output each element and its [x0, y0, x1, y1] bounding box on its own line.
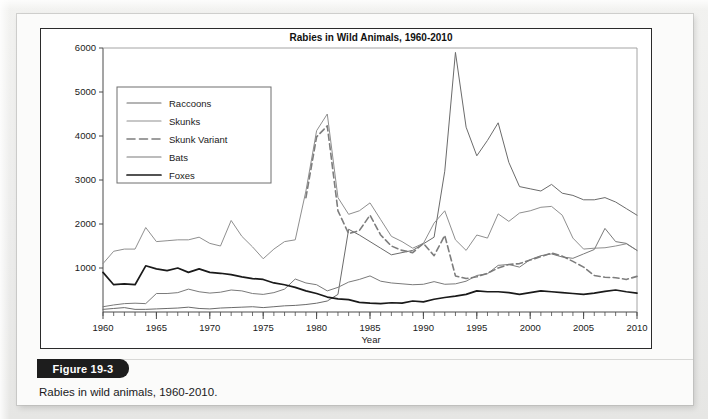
x-tick-label: 1995 [466, 322, 487, 333]
x-tick-label: 1960 [92, 322, 113, 333]
legend-label-bats: Bats [169, 152, 188, 163]
x-tick-label: 2010 [626, 322, 647, 333]
chart-panel: Rabies in Wild Animals, 1960-2010 100020… [40, 28, 652, 349]
x-axis-title: Year [361, 334, 380, 345]
series-line-skunk-variant [306, 126, 637, 280]
rabies-line-chart: Rabies in Wild Animals, 1960-2010 100020… [41, 29, 653, 350]
legend-label-skunk-variant: Skunk Variant [169, 134, 228, 145]
x-tick-label: 2000 [520, 322, 541, 333]
x-tick-label: 1970 [199, 322, 220, 333]
source-credit: Data from Centers for Disease Control an… [686, 0, 690, 32]
legend-label-raccoons: Raccoons [169, 98, 211, 109]
y-tick-label: 5000 [75, 86, 96, 97]
x-tick-label: 1985 [359, 322, 380, 333]
y-tick-label: 4000 [75, 130, 96, 141]
badge-divider [37, 359, 693, 378]
chart-title: Rabies in Wild Animals, 1960-2010 [290, 32, 453, 43]
y-tick-label: 6000 [75, 42, 96, 53]
figure-number-badge: Figure 19-3 [37, 359, 129, 378]
y-tick-label: 3000 [75, 174, 96, 185]
y-tick-label: 2000 [75, 218, 96, 229]
axes-layer: 1000200030004000500060001960196519701975… [75, 42, 648, 333]
y-tick-label: 1000 [75, 262, 96, 273]
series-line-foxes [103, 266, 637, 304]
legend-label-skunks: Skunks [169, 116, 200, 127]
x-tick-label: 1975 [253, 322, 274, 333]
figure-caption: Rabies in wild animals, 1960-2010. [39, 386, 659, 398]
figure-card: Rabies in Wild Animals, 1960-2010 100020… [17, 14, 693, 405]
figure-page: Rabies in Wild Animals, 1960-2010 100020… [0, 0, 708, 419]
legend-label-foxes: Foxes [169, 170, 195, 181]
figure-number-label: Figure 19-3 [53, 363, 114, 375]
x-tick-label: 1965 [146, 322, 167, 333]
chart-legend: RaccoonsSkunksSkunk VariantBatsFoxes [117, 87, 271, 183]
x-tick-label: 1980 [306, 322, 327, 333]
x-tick-label: 2005 [573, 322, 594, 333]
x-tick-label: 1990 [413, 322, 434, 333]
